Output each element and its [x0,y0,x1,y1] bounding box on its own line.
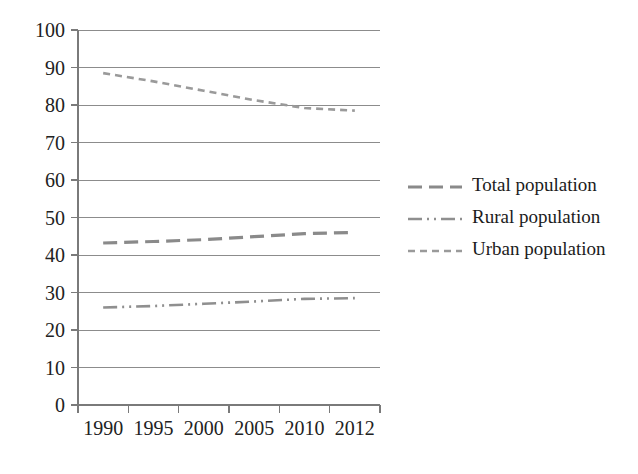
line-chart-figure: 0102030405060708090100 19901995200020052… [0,0,638,474]
y-tick-label: 0 [55,394,65,416]
x-tick-label: 1995 [134,417,174,439]
x-tick-label: 2005 [234,417,274,439]
series-group [103,73,355,307]
x-tick-label: 2010 [285,417,325,439]
gridlines-group [78,30,380,405]
chart-canvas: 0102030405060708090100 19901995200020052… [0,0,638,474]
legend-group: Total populationRural populationUrban po… [408,174,606,259]
x-tick-label: 2000 [184,417,224,439]
y-tick-label: 100 [35,19,65,41]
y-tick-labels-group: 0102030405060708090100 [35,19,65,416]
legend-label: Rural population [472,206,601,227]
y-tick-label: 80 [45,94,65,116]
legend-label: Total population [472,174,597,195]
x-tick-label: 2012 [335,417,375,439]
series-line [103,233,355,244]
x-tick-label: 1990 [83,417,123,439]
y-tick-label: 30 [45,282,65,304]
x-tick-labels-group: 199019952000200520102012 [83,417,375,439]
y-tick-label: 50 [45,207,65,229]
y-tick-label: 70 [45,132,65,154]
y-tick-label: 40 [45,244,65,266]
series-line [103,298,355,307]
y-tick-label: 10 [45,357,65,379]
legend-label: Urban population [472,238,606,259]
y-tick-label: 90 [45,57,65,79]
axes-group [71,30,380,413]
y-tick-label: 60 [45,169,65,191]
y-tick-label: 20 [45,319,65,341]
